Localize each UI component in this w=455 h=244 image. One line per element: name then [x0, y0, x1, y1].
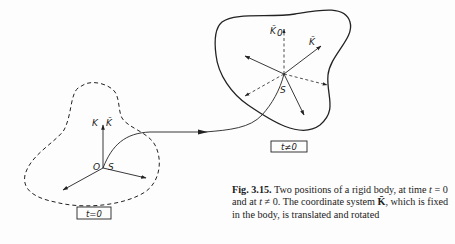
- axis-moved-left-dashed: [245, 74, 284, 96]
- label-K0-subscript: 0: [277, 28, 283, 38]
- label-origin-O: O: [93, 162, 100, 172]
- axis-moved-down: [284, 74, 304, 115]
- caption-fig-number: Fig. 3.15.: [232, 184, 272, 195]
- initial-body-outline: [25, 83, 160, 206]
- axis-Kbar-moved: [284, 46, 321, 74]
- label-S-initial: S: [108, 162, 114, 172]
- trajectory-curve: [103, 74, 284, 168]
- axis-moved-upleft: [245, 56, 284, 74]
- axis-moved-right-dashed: [284, 74, 327, 85]
- moved-body-outline: [215, 10, 351, 130]
- figure-caption: Fig. 3.15. Two positions of a rigid body…: [232, 184, 454, 221]
- trajectory-arrowhead: [198, 130, 208, 135]
- box-t0-label: t=0: [86, 209, 102, 219]
- label-K0-bar: K̄: [270, 25, 277, 36]
- label-K-bar-moved: K̄: [309, 36, 316, 47]
- label-K: K: [92, 118, 99, 128]
- box-tneq0-label: t≠0: [281, 142, 297, 152]
- label-K-bar-initial: K̄: [106, 117, 113, 128]
- caption-eq2: ≠ 0. The coordinate system: [262, 196, 377, 207]
- caption-text-1: Two positions of a rigid body, at time: [272, 184, 429, 195]
- label-S-moved: S: [280, 85, 286, 95]
